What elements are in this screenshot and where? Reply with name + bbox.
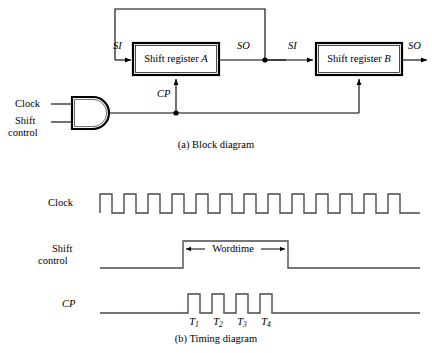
cp-waveform <box>100 294 420 313</box>
shift-register-a-name: Shift register <box>144 53 201 64</box>
shift-register-a-label: Shift register A <box>133 53 219 64</box>
timing-row-label-cp: CP <box>62 298 75 309</box>
shift-register-b-letter: B <box>384 53 390 64</box>
shift-register-b-label: Shift register B <box>316 53 402 64</box>
register-a-si-label: SI <box>113 40 122 51</box>
pulse-label-t3-sub: 3 <box>243 320 247 329</box>
pulse-label-t2-sub: 2 <box>219 320 223 329</box>
register-b-si-label: SI <box>288 40 297 51</box>
figure-root: Shift register A Shift register B SI SO … <box>0 0 432 353</box>
pulse-label-t4-sub: 4 <box>267 320 271 329</box>
timing-row-label-shift-line1: Shift <box>52 243 72 254</box>
shift-register-b-name: Shift register <box>327 53 384 64</box>
pulse-label-t3: T3 <box>237 316 247 329</box>
junction-dot-cp <box>173 110 178 115</box>
timing-row-label-clock: Clock <box>48 197 73 208</box>
pulse-label-t1-sub: 1 <box>195 320 199 329</box>
gate-input-shift-label-line2: control <box>8 127 38 138</box>
register-a-so-label: SO <box>237 40 250 51</box>
gate-input-clock-label: Clock <box>15 98 40 109</box>
block-diagram-caption: (a) Block diagram <box>178 139 254 150</box>
shift-register-a-letter: A <box>201 53 207 64</box>
pulse-label-t4: T4 <box>261 316 271 329</box>
clock-waveform <box>100 194 420 213</box>
pulse-label-t1: T1 <box>189 316 199 329</box>
junction-dot-so <box>262 57 267 62</box>
timing-diagram-caption: (b) Timing diagram <box>175 333 257 344</box>
cp-distribution-wire <box>109 79 359 116</box>
register-a-output-wire <box>219 57 313 62</box>
and-gate <box>51 97 109 129</box>
cp-label-block: CP <box>157 88 170 99</box>
pulse-label-t2: T2 <box>213 316 223 329</box>
register-b-so-label: SO <box>408 40 421 51</box>
gate-input-shift-label-line1: Shift <box>15 115 35 126</box>
wordtime-label: Wordtime <box>212 243 254 254</box>
shift-control-waveform <box>100 241 420 268</box>
timing-row-label-shift-line2: control <box>38 255 68 266</box>
